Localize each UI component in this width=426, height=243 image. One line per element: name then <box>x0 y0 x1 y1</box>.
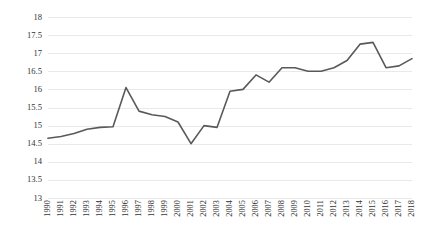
x-tick-label: 2007 <box>265 200 273 217</box>
x-tick-label: 1997 <box>135 200 143 217</box>
y-tick-label: 15.5 <box>2 103 42 112</box>
x-tick-label: 2009 <box>291 200 299 217</box>
y-tick-label: 17.5 <box>2 31 42 40</box>
x-tick-label: 2008 <box>278 200 286 217</box>
x-tick-label: 2012 <box>330 200 338 217</box>
x-tick-label: 2006 <box>252 200 260 217</box>
y-tick-label: 13 <box>2 194 42 203</box>
y-tick-label: 14.5 <box>2 139 42 148</box>
x-tick-label: 2000 <box>174 200 182 217</box>
x-tick-label: 2014 <box>356 200 364 217</box>
y-tick-label: 15 <box>2 121 42 130</box>
line-chart: 1313.51414.51515.51616.51717.518 1990199… <box>0 0 426 243</box>
x-axis-tick-labels: 1990199119921993199419951996199719981999… <box>48 200 412 243</box>
x-tick-label: 1991 <box>57 200 65 217</box>
x-tick-label: 2004 <box>226 200 234 217</box>
x-tick-label: 1994 <box>96 200 104 217</box>
x-tick-label: 2016 <box>382 200 390 217</box>
x-tick-label: 2010 <box>304 200 312 217</box>
y-tick-label: 16.5 <box>2 67 42 76</box>
x-tick-label: 1995 <box>109 200 117 217</box>
x-tick-label: 1998 <box>148 200 156 217</box>
x-tick-label: 1996 <box>122 200 130 217</box>
y-tick-label: 17 <box>2 49 42 58</box>
x-tick-label: 2013 <box>343 200 351 217</box>
x-tick-label: 1993 <box>83 200 91 217</box>
x-tick-label: 1999 <box>161 200 169 217</box>
x-tick-label: 2001 <box>187 200 195 217</box>
x-tick-label: 2017 <box>395 200 403 217</box>
x-tick-label: 1992 <box>70 200 78 217</box>
y-tick-label: 16 <box>2 85 42 94</box>
y-tick-label: 13.5 <box>2 175 42 184</box>
x-tick-label: 2003 <box>213 200 221 217</box>
x-tick-label: 2015 <box>369 200 377 217</box>
x-tick-label: 1990 <box>44 200 52 217</box>
x-tick-label: 2018 <box>408 200 416 217</box>
x-tick-label: 2002 <box>200 200 208 217</box>
x-tick-label: 2005 <box>239 200 247 217</box>
x-tick-label: 2011 <box>317 200 325 216</box>
y-tick-label: 18 <box>2 13 42 22</box>
y-tick-label: 14 <box>2 157 42 166</box>
